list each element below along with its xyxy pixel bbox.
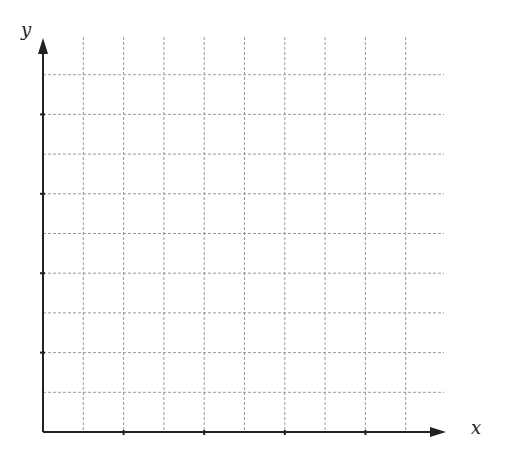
coordinate-grid: x y	[0, 0, 508, 460]
axis-ticks	[40, 114, 365, 435]
axes	[38, 38, 446, 437]
grid-lines	[43, 37, 444, 432]
x-axis-arrow-icon	[430, 427, 446, 437]
y-axis-arrow-icon	[38, 38, 48, 54]
x-axis-label: x	[471, 417, 481, 438]
y-axis-label: y	[20, 19, 32, 40]
